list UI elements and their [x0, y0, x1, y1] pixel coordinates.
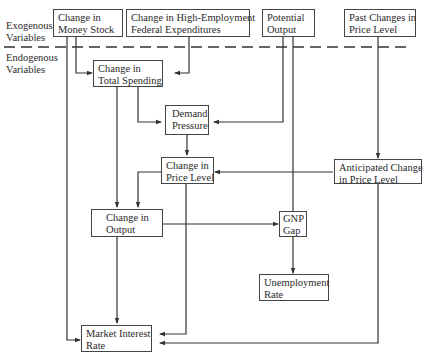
node-change-in-total-spending: Change in Total Spending [93, 60, 163, 87]
node-text: Unemployment [264, 277, 324, 289]
node-text: Change in [106, 212, 158, 224]
node-market-interest-rate: Market Interest Rate [81, 325, 152, 352]
node-text: Past Changes in [349, 12, 411, 24]
node-text: Rate [86, 340, 147, 352]
node-text: Federal Expenditures [131, 24, 245, 36]
node-text: Market Interest [86, 328, 147, 340]
node-text: GNP [283, 213, 303, 225]
exogenous-variables-label: Exogenous Variables [6, 20, 53, 43]
node-text: Change in [166, 160, 209, 172]
label-line: Variables [6, 32, 53, 44]
node-text: Price Level [349, 24, 411, 36]
node-text: in Price Level [339, 174, 417, 186]
node-change-in-price-level: Change in Price Level [161, 157, 214, 184]
node-text: Change in [98, 63, 158, 75]
node-text: Rate [264, 289, 324, 301]
node-text: Money Stock [58, 24, 118, 36]
node-text: Change in [58, 12, 118, 24]
endogenous-variables-label: Endogenous Variables [6, 52, 58, 75]
node-gnp-gap: GNP Gap [279, 211, 307, 237]
node-text: Demand [172, 108, 204, 120]
label-line: Exogenous [6, 20, 53, 32]
node-unemployment-rate: Unemployment Rate [259, 274, 329, 301]
node-text: Change in High-Employment [131, 12, 245, 24]
node-past-changes-in-price-level: Past Changes in Price Level [344, 9, 416, 37]
label-line: Endogenous [6, 52, 58, 64]
node-text: Gap [283, 225, 303, 237]
node-anticipated-change-in-price-level: Anticipated Change in Price Level [334, 159, 422, 184]
node-federal-expenditures: Change in High-Employment Federal Expend… [126, 9, 250, 37]
node-text: Price Level [166, 172, 209, 184]
node-text: Potential [267, 12, 310, 24]
node-text: Anticipated Change [339, 162, 417, 174]
node-change-in-money-stock: Change in Money Stock [53, 9, 123, 37]
node-potential-output: Potential Output [262, 9, 315, 37]
node-text: Output [267, 24, 310, 36]
node-text: Output [106, 224, 158, 236]
node-text: Total Spending [98, 75, 158, 87]
node-text: Pressure [172, 120, 204, 132]
node-change-in-output: Change in Output [91, 209, 163, 237]
node-demand-pressure: Demand Pressure [165, 105, 209, 135]
label-line: Variables [6, 64, 58, 76]
